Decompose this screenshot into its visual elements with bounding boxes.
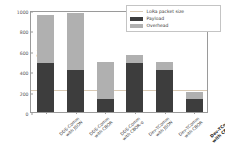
x-axis-tick-label-5: Dev-TCommwith CBOR	[177, 116, 203, 141]
legend-swatch-icon	[130, 24, 143, 28]
legend-item-3: Overhead	[130, 22, 217, 29]
legend-item-1: LoRa packet size	[130, 8, 217, 15]
bar-chart-figure: Bytes 02004006008001000 DDS-Commwith JSO…	[0, 0, 225, 154]
x-axis-tick-mark	[46, 112, 47, 114]
x-axis-tick-mark	[135, 112, 136, 114]
x-axis-tick-mark	[105, 112, 106, 114]
x-axis-tick-label-1: DDS-Commwith JSON	[58, 116, 83, 140]
y-axis-tick-400: 400	[20, 71, 31, 76]
y-axis-tick-mark	[31, 114, 33, 115]
legend-label: Payload	[147, 16, 165, 21]
x-axis-tick-label-6: Dev-TCommwith CBOR-o	[208, 116, 225, 144]
legend-label: Overhead	[147, 23, 169, 28]
legend-label: LoRa packet size	[147, 9, 185, 14]
y-axis-tick-1000: 1000	[17, 10, 31, 15]
x-axis-tick-mark	[76, 112, 77, 114]
x-axis-tick-label-4: Dev-TCommwith JSON	[147, 116, 173, 141]
y-axis-tick-600: 600	[20, 50, 31, 55]
y-axis-tick-800: 800	[20, 30, 31, 35]
legend-item-2: Payload	[130, 15, 217, 22]
x-axis-tick-mark	[194, 112, 195, 114]
legend-swatch-icon	[130, 17, 143, 21]
legend-swatch-icon	[130, 11, 143, 12]
x-axis-tick-label-2: DDS-Commwith CBOR	[88, 116, 113, 140]
chart-legend: LoRa packet sizePayloadOverhead	[126, 5, 221, 32]
x-axis-tick-mark	[165, 112, 166, 114]
y-axis-tick-200: 200	[20, 91, 31, 96]
x-axis-tick-label-3: DDS-Commwith CBOR-o	[118, 116, 145, 141]
